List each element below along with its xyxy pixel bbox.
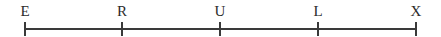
tick-mark-x (415, 22, 417, 36)
tick-mark-u (219, 22, 221, 36)
tick-mark-e (24, 22, 26, 36)
number-line-figure: ERULX (0, 0, 441, 37)
tick-label-l: L (313, 4, 322, 19)
tick-label-e: E (20, 4, 29, 19)
tick-label-u: U (215, 4, 226, 19)
tick-mark-r (121, 22, 123, 36)
tick-label-r: R (117, 4, 127, 19)
tick-mark-l (317, 22, 319, 36)
tick-label-x: X (411, 4, 422, 19)
